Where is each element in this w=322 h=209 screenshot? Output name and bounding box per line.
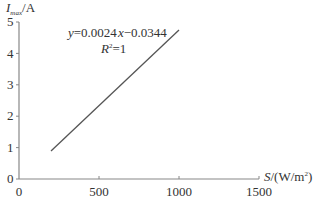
y-tick-label: 1 <box>7 140 14 155</box>
y-tick-label: 0 <box>7 171 14 186</box>
y-tick-label: 3 <box>7 77 14 92</box>
y-axis-title: Imax/A <box>5 0 36 17</box>
chart: 0 1 2 3 4 5 0 500 1000 1500 Imax/A S/(W/… <box>0 0 322 209</box>
x-tick-label: 1000 <box>166 184 192 199</box>
r-squared-annotation: R2=1 <box>100 41 126 56</box>
y-tick-label: 2 <box>7 108 14 123</box>
y-tick-label: 4 <box>7 46 14 61</box>
x-tick-label: 0 <box>16 184 23 199</box>
equation-annotation: y=0.0024x−0.0344 <box>66 25 167 40</box>
x-axis-title: S/(W/m2) <box>264 169 312 184</box>
x-tick-label: 1500 <box>246 184 272 199</box>
x-tick-label: 500 <box>89 184 109 199</box>
